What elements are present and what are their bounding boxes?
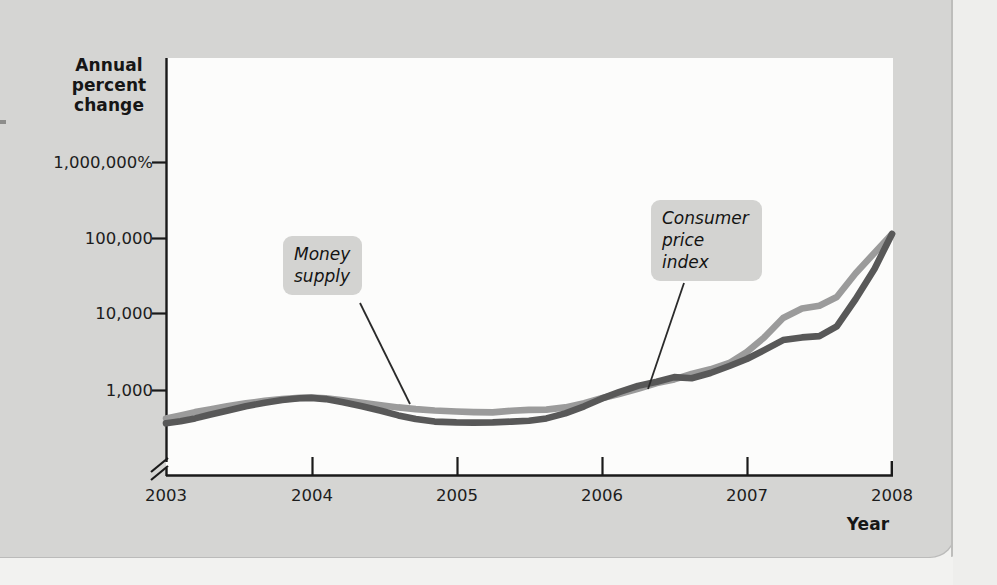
axis-break-symbol [151, 458, 168, 480]
y-tick-label-100000: 100,000 [28, 229, 153, 248]
callout-money-supply-line-1: Money [294, 243, 351, 265]
x-tick-label-2008: 2008 [857, 486, 927, 505]
y-axis-title-line-1: Annual [60, 56, 158, 76]
x-tick-label-2003: 2003 [131, 486, 201, 505]
leader-line-money-supply [360, 303, 410, 404]
callout-cpi-line-2: price [662, 229, 751, 251]
series-line-consumer-price-index [166, 234, 892, 423]
y-tick-label-1000: 1,000 [28, 381, 153, 400]
x-tick-marks [313, 457, 748, 475]
callout-money-supply: Money supply [283, 236, 362, 295]
y-tick-marks [152, 163, 167, 391]
callout-consumer-price-index: Consumer price index [651, 200, 762, 281]
x-axis-title: Year [838, 515, 898, 535]
x-tick-label-2005: 2005 [422, 486, 492, 505]
callout-money-supply-line-2: supply [294, 265, 351, 287]
y-axis-title: Annual percent change [60, 56, 158, 116]
x-tick-label-2007: 2007 [712, 486, 782, 505]
x-tick-label-2006: 2006 [567, 486, 637, 505]
y-tick-label-1000000-percent: 1,000,000% [28, 153, 153, 172]
series-line-money-supply [166, 234, 892, 419]
leader-line-consumer-price-index [648, 283, 684, 389]
figure-page: Annual percent change 1,000,000% 100,000… [0, 0, 997, 585]
y-tick-label-10000: 10,000 [28, 304, 153, 323]
y-axis-title-line-3: change [60, 96, 158, 116]
x-tick-label-2004: 2004 [277, 486, 347, 505]
callout-cpi-line-1: Consumer [662, 207, 751, 229]
callout-cpi-line-3: index [662, 251, 751, 273]
y-axis-title-line-2: percent [60, 76, 158, 96]
